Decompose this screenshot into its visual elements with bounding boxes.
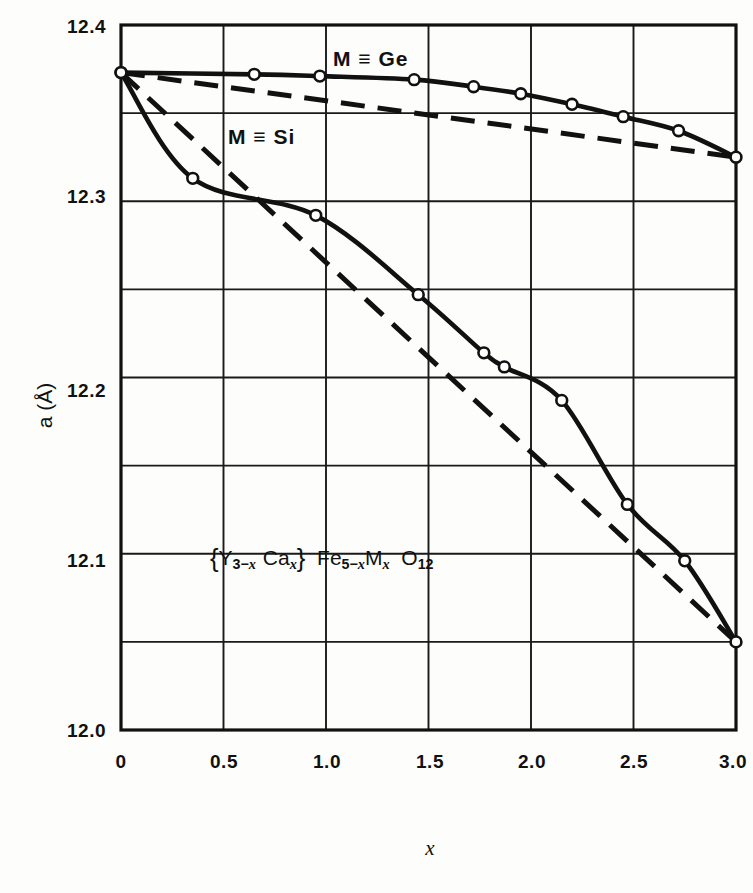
figure-canvas: 12.4 12.3 12.2 12.1 12.0 0 0.5 1.0 1.5 2… (0, 0, 753, 893)
formula-y-sub-var: x (249, 556, 256, 572)
series-label-si: M ≡ Si (228, 126, 295, 147)
formula-fe-sub-num: 5− (342, 556, 358, 572)
formula-y: Y (219, 546, 233, 569)
formula-o-sub: 12 (418, 556, 434, 572)
series-label-ge: M ≡ Ge (333, 48, 408, 69)
x-tick-1.0: 1.0 (313, 752, 341, 771)
x-tick-1.5: 1.5 (416, 752, 444, 771)
compound-formula-annotation: {Y3−x Cax} Fe5−xMx O12 (210, 546, 434, 572)
grid-lines (121, 25, 736, 730)
formula-m: M (365, 546, 383, 569)
x-tick-0: 0 (115, 752, 126, 771)
formula-o: O (401, 546, 417, 569)
formula-fe-sub-var: x (358, 556, 365, 572)
x-tick-0.5: 0.5 (210, 752, 238, 771)
formula-open-brace: { (210, 544, 219, 572)
formula-fe: Fe (317, 546, 342, 569)
x-tick-3.0: 3.0 (719, 752, 747, 771)
x-tick-2.5: 2.5 (620, 752, 648, 771)
formula-ca: Ca (263, 546, 290, 569)
x-axis-label: x (425, 838, 434, 859)
formula-ca-sub-var: x (290, 556, 297, 572)
y-axis-label: a (Å) (34, 346, 55, 466)
formula-m-sub-var: x (382, 556, 389, 572)
x-tick-2.0: 2.0 (518, 752, 546, 771)
formula-y-sub-num: 3− (233, 556, 249, 572)
